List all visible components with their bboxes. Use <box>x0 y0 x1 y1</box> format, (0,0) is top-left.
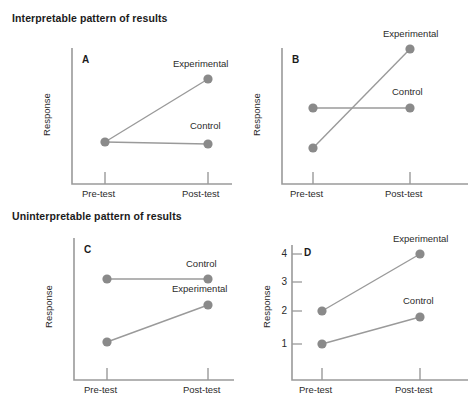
panel-a-point-experimental-posttest <box>203 74 212 83</box>
panel-b-letter: B <box>292 54 299 65</box>
panel-b-label-experimental: Experimental <box>383 28 438 39</box>
panel-c-xtick-label-posttest: Post-test <box>183 384 221 395</box>
panel-d-ytick-label-4: 4 <box>273 248 287 259</box>
panel-a-line-control <box>105 142 208 144</box>
panel-c-xtick-label-pretest: Pre-test <box>84 384 117 395</box>
panel-a-point-control-posttest <box>203 139 212 148</box>
panel-d-point-control-posttest <box>415 312 424 321</box>
panel-c-point-experimental-posttest <box>203 300 212 309</box>
panel-d: D Response 4 3 2 1 Pre-test Post-test Ex… <box>240 205 473 412</box>
panel-b-point-experimental-posttest <box>405 44 414 53</box>
panel-b-xtick-label-pretest: Pre-test <box>290 188 323 199</box>
panel-d-point-experimental-posttest <box>415 249 424 258</box>
panel-b-line-experimental <box>313 49 410 148</box>
panel-b-point-control-pretest <box>308 103 317 112</box>
panel-a-xtick-label-posttest: Post-test <box>182 188 220 199</box>
panel-a-label-control: Control <box>190 120 221 131</box>
panel-c-point-experimental-pretest <box>102 337 111 346</box>
panel-d-ytick-label-3: 3 <box>273 276 287 287</box>
panel-d-ytick-label-2: 2 <box>273 305 287 316</box>
panel-b-ylabel: Response <box>251 86 262 144</box>
panel-a-xtick-label-pretest: Pre-test <box>82 188 115 199</box>
panel-b-point-control-posttest <box>405 103 414 112</box>
panel-b: B Response Pre-test Post-test Experiment… <box>240 0 473 205</box>
panel-d-letter: D <box>304 247 311 258</box>
panel-d-label-control: Control <box>403 295 434 306</box>
panel-a-letter: A <box>82 54 89 65</box>
panel-a-point-pretest <box>100 137 109 146</box>
panel-b-axes <box>282 48 468 184</box>
panel-d-xtick-label-posttest: Post-test <box>395 384 433 395</box>
panel-d-ytick-label-1: 1 <box>273 338 287 349</box>
panel-d-line-control <box>322 317 420 344</box>
panel-b-xtick-label-posttest: Post-test <box>385 188 423 199</box>
panel-c-label-control: Control <box>186 258 217 269</box>
panel-c: C Response Pre-test Post-test Control Ex… <box>0 205 240 412</box>
panel-c-point-control-pretest <box>102 274 111 283</box>
panel-a-label-experimental: Experimental <box>173 58 228 69</box>
panel-d-point-experimental-pretest <box>317 306 326 315</box>
panel-d-ylabel: Response <box>261 278 272 336</box>
panel-a-ylabel: Response <box>41 86 52 144</box>
panel-c-plot <box>0 205 240 412</box>
panel-a-plot <box>0 0 240 205</box>
panel-d-point-control-pretest <box>317 339 326 348</box>
panel-b-label-control: Control <box>392 86 423 97</box>
panel-a: A Response Pre-test Post-test Experiment… <box>0 0 240 205</box>
panel-a-line-experimental <box>105 79 208 142</box>
panel-d-label-experimental: Experimental <box>393 233 448 244</box>
panel-b-point-experimental-pretest <box>308 143 317 152</box>
panel-c-ylabel: Response <box>43 278 54 336</box>
panel-c-label-experimental: Experimental <box>172 283 227 294</box>
panel-d-xtick-label-pretest: Pre-test <box>299 384 332 395</box>
panel-c-line-experimental <box>107 305 208 342</box>
figure-panels: Interpretable pattern of results Uninter… <box>0 0 473 412</box>
panel-c-letter: C <box>84 244 91 255</box>
